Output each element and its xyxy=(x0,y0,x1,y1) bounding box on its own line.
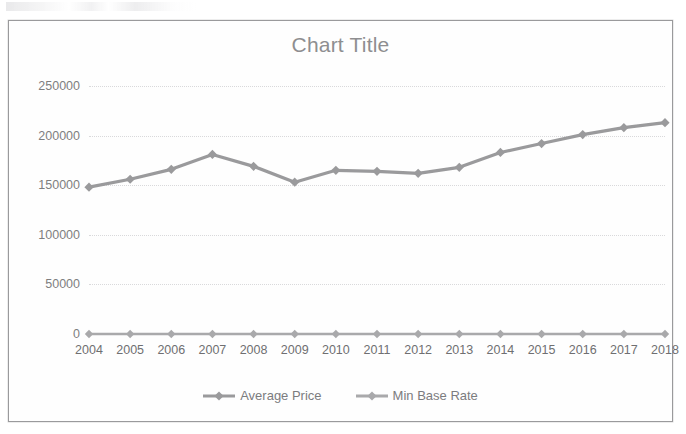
data-point-marker xyxy=(414,330,422,338)
data-point-marker xyxy=(455,330,463,338)
data-point-marker xyxy=(126,175,135,184)
data-point-marker xyxy=(537,330,545,338)
legend-entry[interactable]: Min Base Rate xyxy=(356,388,478,403)
data-point-marker xyxy=(249,162,258,171)
data-point-marker xyxy=(578,130,587,139)
series-2 xyxy=(85,330,669,338)
series-plot xyxy=(89,86,665,334)
x-axis-tick-label: 2014 xyxy=(487,343,515,357)
x-axis-tick-label: 2005 xyxy=(116,343,144,357)
x-axis-tick-label: 2012 xyxy=(404,343,432,357)
x-axis-tick-label: 2015 xyxy=(528,343,556,357)
y-axis-tick-label: 0 xyxy=(73,327,80,341)
x-axis-tick-label: 2013 xyxy=(445,343,473,357)
data-point-marker xyxy=(372,167,381,176)
x-axis-tick-label: 2011 xyxy=(364,343,391,357)
data-point-marker xyxy=(579,330,587,338)
x-axis-tick-label: 2017 xyxy=(610,343,638,357)
x-axis-tick-label: 2018 xyxy=(651,343,679,357)
data-point-marker xyxy=(291,330,299,338)
data-point-marker xyxy=(249,330,257,338)
data-point-marker xyxy=(332,330,340,338)
series-1 xyxy=(84,118,669,192)
x-axis-tick-label: 2016 xyxy=(569,343,597,357)
data-point-marker xyxy=(208,330,216,338)
scan-artifact xyxy=(6,2,196,11)
data-point-marker xyxy=(208,150,217,159)
x-axis-tick-label: 2008 xyxy=(240,343,268,357)
data-point-marker xyxy=(331,166,340,175)
data-point-marker xyxy=(414,169,423,178)
y-axis-tick-label: 250000 xyxy=(38,79,80,93)
y-axis-tick-label: 200000 xyxy=(38,129,80,143)
data-point-marker xyxy=(290,178,299,187)
chart-legend[interactable]: Average PriceMin Base Rate xyxy=(9,388,672,403)
data-point-marker xyxy=(620,330,628,338)
data-point-marker xyxy=(85,330,93,338)
series-line xyxy=(89,123,665,187)
legend-marker-icon xyxy=(203,390,235,402)
data-point-marker xyxy=(373,330,381,338)
plot-area: 250000200000150000100000500000 200420052… xyxy=(89,86,665,334)
data-point-marker xyxy=(84,183,93,192)
data-point-marker xyxy=(537,139,546,148)
legend-entry[interactable]: Average Price xyxy=(203,388,321,403)
x-axis-tick-label: 2009 xyxy=(281,343,309,357)
x-axis-tick-label: 2010 xyxy=(322,343,350,357)
data-point-marker xyxy=(455,163,464,172)
x-axis-tick-label: 2004 xyxy=(75,343,103,357)
data-point-marker xyxy=(167,330,175,338)
legend-label: Average Price xyxy=(240,388,321,403)
data-point-marker xyxy=(167,165,176,174)
data-point-marker xyxy=(496,330,504,338)
data-point-marker xyxy=(496,148,505,157)
chart-title: Chart Title xyxy=(9,33,672,57)
data-point-marker xyxy=(661,330,669,338)
y-axis-tick-label: 150000 xyxy=(38,178,80,192)
x-axis-tick-label: 2007 xyxy=(199,343,227,357)
chart-container[interactable]: Chart Title 2500002000001500001000005000… xyxy=(8,20,673,422)
data-point-marker xyxy=(619,123,628,132)
y-axis-tick-label: 50000 xyxy=(45,277,80,291)
data-point-marker xyxy=(660,118,669,127)
legend-marker-icon xyxy=(356,390,388,402)
legend-label: Min Base Rate xyxy=(393,388,478,403)
data-point-marker xyxy=(126,330,134,338)
x-axis-tick-label: 2006 xyxy=(157,343,185,357)
y-axis-tick-label: 100000 xyxy=(38,228,80,242)
